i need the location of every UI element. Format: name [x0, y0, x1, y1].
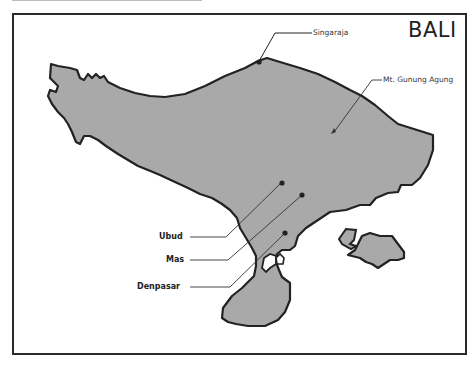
label-denpasar: Denpasar [137, 282, 180, 291]
nusa-lembongan-island [339, 229, 356, 249]
label-mas: Mas [166, 255, 184, 264]
label-singaraja: Singaraja [313, 28, 348, 37]
label-ubud: Ubud [159, 232, 183, 241]
ubud-dot-icon [279, 180, 284, 185]
singaraja-dot-icon [256, 59, 261, 64]
nusa-penida-island [348, 233, 404, 268]
bali-island [48, 58, 433, 326]
denpasar-dot-icon [282, 230, 287, 235]
mas-dot-icon [299, 192, 304, 197]
label-mt-gunung-agung: Mt. Gunung Agung [383, 75, 453, 84]
bali-map [0, 0, 476, 369]
map-title: BALI [408, 18, 457, 42]
